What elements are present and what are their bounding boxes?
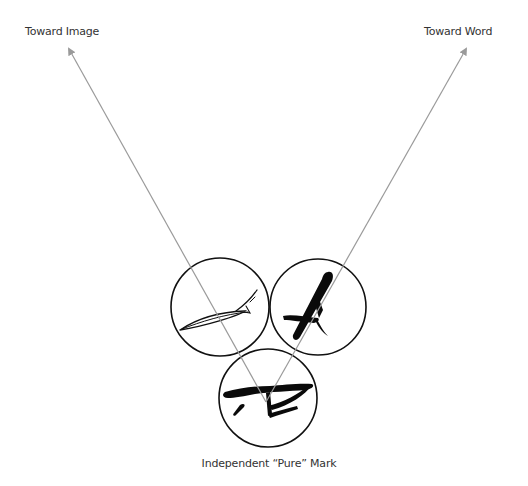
arrow-to-word	[266, 49, 466, 402]
toward-image-label: Toward Image	[25, 25, 99, 38]
abstract-brush-mark-icon	[223, 384, 313, 418]
diagram-canvas	[0, 0, 528, 486]
pure-mark-label: Independent “Pure” Mark	[0, 457, 528, 470]
arrow-to-image	[69, 49, 266, 402]
image-mark-circle	[171, 258, 269, 356]
brush-letter-a-icon	[283, 272, 333, 340]
fish-sketch-icon	[180, 290, 257, 330]
toward-word-label: Toward Word	[424, 25, 492, 38]
